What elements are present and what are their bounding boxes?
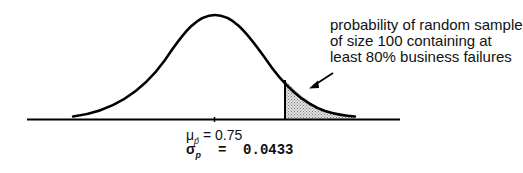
annotation-line-2: of size 100 containing at: [330, 33, 523, 49]
annotation-line-3: least 80% business failures: [330, 49, 523, 65]
tail-annotation: probability of random sample of size 100…: [330, 17, 523, 65]
shaded-tail-region: [285, 80, 355, 119]
normal-curve: [73, 15, 355, 117]
sd-value: 0.0433: [243, 142, 293, 158]
annotation-line-1: probability of random sample: [330, 17, 523, 33]
sigma-symbol: σ: [186, 141, 196, 157]
sd-label: σp = 0.0433: [186, 141, 294, 160]
sigma-equals: =: [201, 142, 243, 158]
arrow-icon: [309, 73, 333, 89]
